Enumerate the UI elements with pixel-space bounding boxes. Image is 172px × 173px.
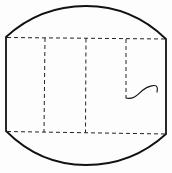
diagram-canvas	[0, 0, 172, 173]
outline-shape	[6, 6, 166, 165]
barrel-net-diagram	[0, 0, 172, 173]
